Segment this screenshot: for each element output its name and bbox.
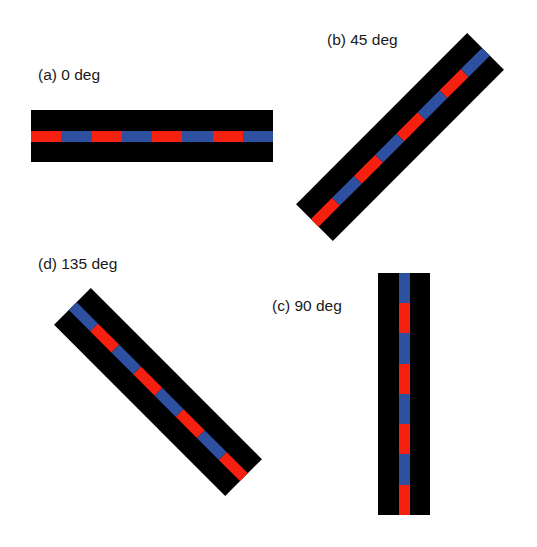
stripe-segment-red <box>399 485 410 515</box>
stripe-segment-blue <box>61 131 91 142</box>
stripe-segment-blue <box>399 394 410 424</box>
stripe-segment-blue <box>112 345 141 374</box>
panel-label-c: (c) 90 deg <box>272 298 342 314</box>
stripe-segment-red <box>219 452 248 481</box>
stripe-segment-red <box>176 409 205 438</box>
stripe-segment-blue <box>461 48 490 77</box>
panel-label-d: (d) 135 deg <box>38 256 117 272</box>
center-stripe <box>399 273 410 515</box>
stripe-segment-red <box>133 366 162 395</box>
center-stripe <box>69 302 248 481</box>
stripe-segment-red <box>399 424 410 454</box>
stripe-segment-blue <box>154 388 183 417</box>
stripe-segment-red <box>399 364 410 394</box>
stripe-segment-red <box>152 131 182 142</box>
stripe-segment-red <box>31 131 61 142</box>
panel-label-b: (b) 45 deg <box>327 32 398 48</box>
striped-bar-b <box>296 33 504 241</box>
stripe-segment-blue <box>399 334 410 364</box>
stripe-segment-blue <box>197 431 226 460</box>
stripe-segment-red <box>213 131 243 142</box>
stripe-segment-blue <box>182 131 212 142</box>
center-stripe <box>311 48 490 227</box>
stripe-segment-blue <box>399 273 410 303</box>
center-stripe <box>31 131 273 142</box>
stripe-segment-blue <box>243 131 273 142</box>
stripe-segment-red <box>90 324 119 353</box>
striped-bar-c <box>378 273 430 515</box>
stripe-segment-red <box>92 131 122 142</box>
striped-bar-a <box>31 110 273 162</box>
stripe-segment-blue <box>122 131 152 142</box>
stripe-segment-blue <box>69 302 98 331</box>
striped-bar-d <box>54 288 262 496</box>
stripe-segment-blue <box>399 455 410 485</box>
stripe-segment-red <box>399 303 410 333</box>
panel-label-a: (a) 0 deg <box>38 67 100 83</box>
